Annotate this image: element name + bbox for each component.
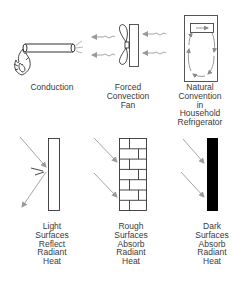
fan-icon <box>119 25 129 65</box>
label-line: Refrigerator <box>170 118 230 127</box>
fan-grille-icon <box>130 25 139 67</box>
dark-wall-icon <box>207 138 218 211</box>
flame-icon <box>14 49 30 75</box>
label-line: Heat <box>22 257 82 266</box>
incident-ray-icon <box>183 139 204 163</box>
forced-convection-label: Forced Convection Fan <box>98 83 158 109</box>
label-line: Fan <box>98 101 158 110</box>
rough-surfaces-illustration <box>94 138 147 211</box>
light-surfaces-illustration <box>20 137 60 211</box>
dark-surfaces-illustration <box>181 138 218 211</box>
natural-convection-label: Natural Convention in Household Refriger… <box>170 83 230 127</box>
heat-glow-icon <box>76 41 83 53</box>
reflection-burst-icon <box>31 168 44 175</box>
rough-surfaces-label: Rough Surfaces Absorb Radiant Heat <box>101 222 161 266</box>
brick-wall-icon <box>120 139 147 211</box>
heated-rod-icon <box>23 44 75 52</box>
conduction-illustration <box>14 41 83 75</box>
incident-ray-icon <box>94 173 117 197</box>
natural-convection-illustration <box>185 16 218 82</box>
light-wall-icon <box>49 139 60 211</box>
label-line: Heat <box>182 257 236 266</box>
label-line: Heat <box>101 257 161 266</box>
label-line: Conduction <box>22 83 82 92</box>
reflected-ray-icon <box>22 172 46 207</box>
conduction-label: Conduction <box>22 83 82 92</box>
light-surfaces-label: Light Surfaces Reflect Radiant Heat <box>22 222 82 266</box>
incident-ray-icon <box>94 138 117 162</box>
dark-surfaces-label: Dark Surfaces Absorb Radiant Heat <box>182 222 236 266</box>
incident-ray-icon <box>181 172 204 197</box>
forced-convection-illustration <box>92 25 166 67</box>
incident-ray-icon <box>20 137 46 167</box>
